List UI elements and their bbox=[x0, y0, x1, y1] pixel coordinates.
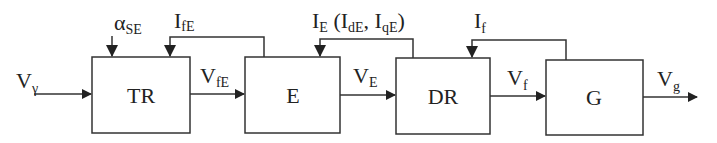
signal-alpha-se: αSE bbox=[114, 10, 142, 37]
signal-i-e: IE (IdE, IqE) bbox=[312, 8, 405, 35]
feedback-ife bbox=[170, 37, 264, 57]
feedback-ie bbox=[320, 39, 413, 58]
signal-v-fe: VfE bbox=[200, 63, 229, 90]
signal-i-f: If bbox=[474, 8, 486, 36]
signal-v-e: VE bbox=[353, 63, 377, 90]
block-e-label: E bbox=[286, 83, 299, 108]
block-g: G bbox=[546, 60, 643, 135]
signal-i-fe: IfE bbox=[174, 8, 195, 34]
feedback-if bbox=[472, 40, 566, 60]
block-dr-label: DR bbox=[428, 84, 459, 109]
signal-v-f: Vf bbox=[507, 65, 528, 93]
signal-v-g: Vg bbox=[657, 66, 680, 94]
block-g-label: G bbox=[586, 85, 602, 110]
block-e: E bbox=[245, 57, 340, 133]
block-tr: TR bbox=[92, 57, 190, 133]
block-diagram: TR E DR G Vγ αSE IfE VfE IE (IdE, IqE) V… bbox=[0, 0, 717, 143]
block-dr: DR bbox=[396, 58, 490, 134]
block-tr-label: TR bbox=[127, 83, 155, 108]
signal-v-gamma: Vγ bbox=[16, 68, 38, 96]
